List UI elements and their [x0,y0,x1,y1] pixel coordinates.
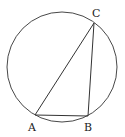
circumcircle [7,12,117,122]
vertex-label-c: C [92,7,100,20]
segment-bc [88,23,94,116]
geometry-diagram: A B C [0,0,125,137]
vertex-label-b: B [84,121,92,134]
segment-ab [35,115,88,116]
diagram-svg: A B C [0,0,125,137]
segment-ac [35,23,94,115]
vertex-label-a: A [27,121,37,134]
